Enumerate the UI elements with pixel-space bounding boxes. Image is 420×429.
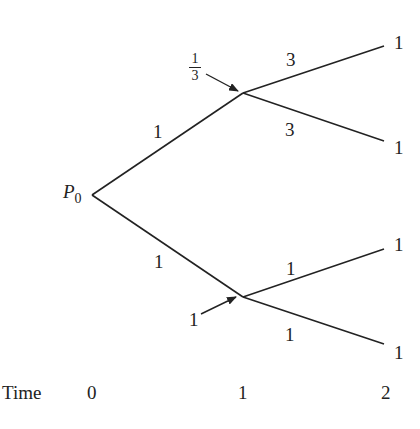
weight-lower-up: 1 <box>286 259 296 278</box>
edge-lower-down <box>243 297 384 344</box>
time-axis-label: Time <box>2 383 41 402</box>
weight-lower-down: 1 <box>285 325 295 344</box>
weight-root-lower: 1 <box>154 252 164 271</box>
binomial-tree-diagram: P0 1 1 1 3 1 3 3 1 1 1 1 1 1 Time 0 1 2 <box>0 0 420 429</box>
edge-lower-up <box>243 249 384 297</box>
lower-node-annotation: 1 <box>189 310 199 329</box>
root-node-label: P0 <box>63 182 82 201</box>
edge-upper-down <box>243 93 384 141</box>
root-subscript: 0 <box>75 191 82 206</box>
time-tick-0: 0 <box>87 383 97 402</box>
time-tick-2: 2 <box>381 383 391 402</box>
tree-edges <box>0 0 420 429</box>
weight-root-upper: 1 <box>153 122 163 141</box>
weight-upper-down: 3 <box>285 120 295 139</box>
terminal-value-2: 1 <box>394 138 404 157</box>
annotation-denominator: 3 <box>189 69 201 83</box>
terminal-value-3: 1 <box>394 235 404 254</box>
terminal-value-1: 1 <box>394 33 404 52</box>
time-tick-1: 1 <box>238 383 248 402</box>
root-symbol: P <box>63 181 75 202</box>
edge-upper-up <box>243 46 384 93</box>
edge-root-to-upper <box>92 93 243 195</box>
edge-root-to-lower <box>92 195 243 297</box>
arrow-to-upper-node <box>206 74 238 91</box>
arrow-to-lower-node <box>201 297 236 314</box>
weight-upper-up: 3 <box>286 50 296 69</box>
annotation-numerator: 1 <box>189 52 201 66</box>
terminal-value-4: 1 <box>394 343 404 362</box>
upper-node-annotation: 1 3 <box>189 52 201 83</box>
